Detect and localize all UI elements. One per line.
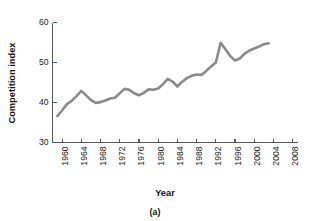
figure-caption: (a) [150, 207, 161, 217]
competition-index-line [57, 43, 268, 116]
y-tick-label-50: 50 [39, 57, 49, 67]
x-tick-label-1976: 1976 [136, 146, 146, 165]
x-tick-label-2008: 2008 [290, 146, 300, 165]
y-axis-title: Competition index [7, 42, 17, 124]
x-tick-label-1980: 1980 [156, 146, 166, 165]
x-tick-label-1968: 1968 [98, 146, 108, 165]
y-tick-label-40: 40 [39, 97, 49, 107]
x-tick-label-1984: 1984 [175, 146, 185, 165]
y-tick-label-60: 60 [39, 17, 49, 27]
x-tick-label-1960: 1960 [60, 146, 70, 165]
x-axis-title: Year [155, 188, 175, 198]
x-tick-label-1972: 1972 [117, 146, 127, 165]
y-tick-label-30: 30 [39, 137, 49, 147]
figure-panel: 30405060 1960196419681972197619801984198… [0, 0, 310, 221]
x-axis-tick-labels: 1960196419681972197619801984198819921996… [60, 146, 301, 165]
x-axis-tick-marks [62, 139, 293, 143]
line-chart: 30405060 1960196419681972197619801984198… [0, 0, 310, 221]
x-tick-label-1996: 1996 [233, 146, 243, 165]
x-tick-label-1988: 1988 [194, 146, 204, 165]
x-tick-label-2000: 2000 [252, 146, 262, 165]
x-tick-label-2004: 2004 [271, 146, 281, 165]
y-axis-tick-labels: 30405060 [39, 17, 49, 147]
x-tick-label-1992: 1992 [213, 146, 223, 165]
x-tick-label-1964: 1964 [79, 146, 89, 165]
y-axis-tick-marks [53, 23, 57, 143]
